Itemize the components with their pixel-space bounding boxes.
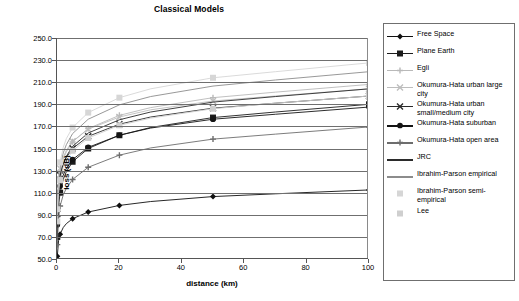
gridline bbox=[57, 193, 368, 194]
series-line bbox=[57, 190, 368, 256]
gridline bbox=[57, 82, 368, 83]
legend-item[interactable]: Okumura-Hata urban large city bbox=[387, 80, 511, 98]
plot-area: loss (dB) bbox=[56, 38, 368, 259]
data-point-marker bbox=[397, 34, 403, 40]
data-point-marker bbox=[397, 140, 403, 146]
data-point-marker bbox=[397, 51, 403, 57]
data-point-marker bbox=[116, 152, 122, 158]
data-point-marker bbox=[57, 218, 60, 224]
legend-item[interactable]: Okumura-Hata suburban bbox=[387, 118, 511, 134]
data-point-marker bbox=[397, 68, 403, 74]
legend: Free SpacePlane EarthEgliOkumura-Hata ur… bbox=[383, 23, 515, 281]
x-tick-mark bbox=[118, 259, 119, 263]
data-point-marker bbox=[116, 202, 122, 208]
legend-key-none-icon bbox=[387, 170, 413, 183]
y-tick-label: 130.0 bbox=[2, 166, 52, 175]
gridline bbox=[57, 149, 368, 150]
series-10 bbox=[57, 93, 368, 224]
legend-label: Egli bbox=[417, 63, 429, 73]
legend-item[interactable]: JRC bbox=[387, 152, 511, 168]
legend-item[interactable]: Ibrahim-Parson empirical bbox=[387, 169, 511, 185]
x-tick-label: 40 bbox=[177, 263, 185, 272]
x-tick-mark bbox=[243, 259, 244, 263]
legend-label: Okumura-Hata suburban bbox=[417, 118, 496, 128]
plot-right-edge bbox=[367, 38, 368, 258]
legend-label: Ibrahim-Parson empirical bbox=[417, 169, 497, 179]
x-tick-mark bbox=[306, 259, 307, 263]
legend-key-plus-icon bbox=[387, 136, 413, 149]
x-axis-ticks: 020406080100 bbox=[56, 259, 368, 275]
legend-label: Lee bbox=[417, 206, 429, 216]
legend-item[interactable]: Okumura-Hata open area bbox=[387, 135, 511, 151]
data-point-marker bbox=[70, 157, 76, 163]
x-tick-label: 0 bbox=[54, 263, 58, 272]
y-tick-label: 70.0 bbox=[2, 232, 52, 241]
gridline bbox=[57, 60, 368, 61]
series-0 bbox=[57, 187, 368, 258]
legend-item[interactable]: Plane Earth bbox=[387, 46, 511, 62]
y-axis-ticks: 250.0230.0210.0190.0170.0150.0130.0110.0… bbox=[0, 38, 52, 259]
legend-marker-icon bbox=[387, 30, 413, 43]
legend-label: Okumura-Hata urban small/medium city bbox=[417, 99, 511, 117]
legend-key-square-icon bbox=[387, 207, 413, 220]
legend-key-cross-icon bbox=[387, 100, 413, 113]
data-point-marker bbox=[397, 123, 403, 129]
data-point-marker bbox=[85, 135, 91, 141]
legend-line-swatch bbox=[387, 176, 413, 177]
legend-item[interactable]: Ibrahim-Parson semi-empirical bbox=[387, 186, 511, 204]
y-tick-label: 170.0 bbox=[2, 122, 52, 131]
plot-inner bbox=[57, 38, 368, 258]
x-axis-title: distance (km) bbox=[56, 279, 368, 288]
series-line bbox=[57, 107, 368, 225]
legend-marker-icon bbox=[387, 136, 413, 149]
legend-marker-icon bbox=[387, 81, 413, 94]
x-tick-mark bbox=[56, 259, 57, 263]
legend-marker-icon bbox=[387, 64, 413, 77]
x-tick-mark bbox=[368, 259, 369, 263]
gridline bbox=[57, 215, 368, 216]
legend-marker-icon bbox=[387, 100, 413, 113]
data-point-marker bbox=[397, 191, 403, 197]
data-point-marker bbox=[116, 122, 122, 128]
y-tick-label: 150.0 bbox=[2, 144, 52, 153]
legend-key-plus-icon bbox=[387, 64, 413, 77]
legend-item[interactable]: Free Space bbox=[387, 29, 511, 45]
x-tick-label: 60 bbox=[239, 263, 247, 272]
data-point-marker bbox=[210, 194, 216, 200]
y-tick-label: 230.0 bbox=[2, 56, 52, 65]
x-tick-label: 20 bbox=[114, 263, 122, 272]
y-tick-label: 50.0 bbox=[2, 255, 52, 264]
legend-label: Ibrahim-Parson semi-empirical bbox=[417, 186, 511, 204]
y-tick-label: 110.0 bbox=[2, 188, 52, 197]
gridline bbox=[57, 104, 368, 105]
legend-key-circle-icon bbox=[387, 119, 413, 132]
legend-item[interactable]: Okumura-Hata urban small/medium city bbox=[387, 99, 511, 117]
data-point-marker bbox=[210, 106, 216, 112]
y-tick-label: 90.0 bbox=[2, 210, 52, 219]
legend-marker-icon bbox=[387, 207, 413, 220]
data-point-marker bbox=[210, 75, 216, 81]
x-tick-label: 100 bbox=[362, 263, 375, 272]
series-line bbox=[57, 127, 368, 245]
legend-item[interactable]: Egli bbox=[387, 63, 511, 79]
chart-container: Classical Models 250.0230.0210.0190.0170… bbox=[0, 0, 519, 301]
legend-key-none-icon bbox=[387, 153, 413, 166]
series-line bbox=[57, 63, 368, 209]
gridline bbox=[57, 38, 368, 39]
legend-item[interactable]: Lee bbox=[387, 206, 511, 222]
data-point-marker bbox=[397, 85, 403, 91]
legend-key-square-icon bbox=[387, 187, 413, 200]
data-point-marker bbox=[117, 132, 123, 138]
legend-key-square-icon bbox=[387, 47, 413, 60]
x-tick-label: 80 bbox=[301, 263, 309, 272]
x-tick-mark bbox=[181, 259, 182, 263]
series-6 bbox=[57, 124, 368, 248]
legend-label: Plane Earth bbox=[417, 46, 455, 56]
y-tick-label: 190.0 bbox=[2, 100, 52, 109]
y-axis-title: loss (dB) bbox=[62, 138, 71, 208]
legend-key-cross-icon bbox=[387, 81, 413, 94]
legend-label: Okumura-Hata open area bbox=[417, 135, 499, 145]
gridline bbox=[57, 126, 368, 127]
data-point-marker bbox=[70, 125, 76, 131]
data-point-marker bbox=[210, 116, 216, 122]
